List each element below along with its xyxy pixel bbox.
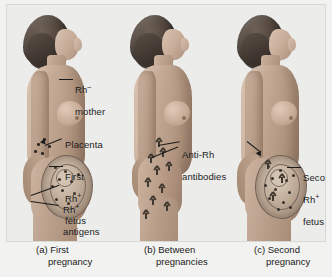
panel-second-pregnancy: Second Rh+ fetus [221,5,326,242]
caption-between-pregnancies: (b) Between pregnancies [144,244,208,268]
mother-figure-b [114,5,220,242]
caption-b-line2: pregnancies [144,256,208,268]
panel-between-pregnancies: Anti-Rh antibodies [114,5,220,242]
leader-first-fetus [49,166,63,167]
illustration-plate: Rh– mother Placenta First Rh+ fetus [6,4,326,242]
caption-a-line1: (a) First [36,244,92,256]
antibody-icon [148,195,157,205]
leader-rh-mother [59,79,73,80]
caption-a-line2: pregnancy [36,256,92,268]
caption-b-line1: (b) Between [144,244,208,256]
label-anti-rh-text: Anti-Rh [182,149,214,160]
label-placenta-text: Placenta [65,139,103,150]
antibody-icon [162,201,171,211]
label-antigens-rh-text: Rh [63,204,75,215]
caption-c-line1: (c) Second [254,244,310,256]
label-second-rh-positive-fetus: Second Rh+ fetus [303,161,326,227]
label-rh-negative-mother: Rh– mother [75,73,105,117]
antibody-icon [146,153,155,163]
antibody-icon [152,165,161,175]
caption-first-pregnancy: (a) First pregnancy [36,244,92,268]
antibody-icon [157,183,166,193]
label-mother-text: mother [75,106,105,117]
arrowhead-placenta [40,139,46,146]
antibody-icon [143,177,152,187]
antibody-icon [164,161,173,171]
rh-minus-superscript: – [87,83,91,90]
label-antigens-text: antigens [63,226,100,237]
legs [140,197,178,242]
label-anti-rh-antibodies: Anti-Rh antibodies [182,138,226,182]
rh-incompatibility-figure: Rh– mother Placenta First Rh+ fetus [0,0,332,277]
antibody-icon [141,209,150,219]
panel-first-pregnancy: Rh– mother Placenta First Rh+ fetus [7,5,113,242]
label-second-fetus-text: fetus [303,216,324,227]
rh-plus-superscript-second: + [315,193,319,200]
label-second-text: Second [303,172,326,183]
label-antibodies-text: antibodies [182,171,226,182]
leader-second-fetus [287,167,301,168]
antibody-icon [263,159,272,169]
label-rh-mother-text: Rh [75,84,87,95]
panel-captions: (a) First pregnancy (b) Between pregnanc… [6,244,326,274]
label-second-rh-text: Rh [303,194,315,205]
label-placenta: Placenta [65,128,103,150]
label-rh-positive-antigens: Rh+ antigens [63,193,100,237]
antibody-icon [268,191,277,201]
rh-plus-superscript-antigens: + [75,203,79,210]
caption-c-line2: pregnancy [254,256,310,268]
antibody-icon [277,173,286,183]
caption-second-pregnancy: (c) Second pregnancy [254,244,310,268]
label-first-text: First [65,171,84,182]
